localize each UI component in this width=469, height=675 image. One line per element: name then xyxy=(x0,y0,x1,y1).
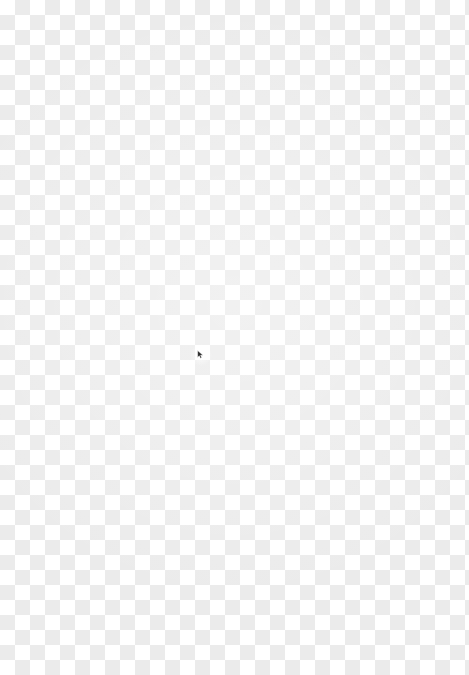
transparent-canvas[interactable] xyxy=(0,0,469,675)
mouse-pointer-path xyxy=(198,351,203,359)
cursor-halo xyxy=(190,344,212,366)
mouse-pointer-glyph xyxy=(197,350,204,359)
checkerboard-background xyxy=(0,0,469,675)
cursor-layer xyxy=(0,0,469,675)
mouse-pointer-icon xyxy=(197,350,204,359)
